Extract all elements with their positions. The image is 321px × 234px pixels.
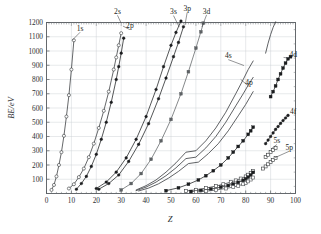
data-point-marker <box>85 175 88 178</box>
data-point-marker <box>100 138 103 141</box>
annotation-4s: 4s <box>225 51 244 65</box>
data-point-marker <box>227 156 230 159</box>
data-point-marker <box>105 181 108 184</box>
x-tick-label: 80 <box>242 196 250 205</box>
data-point-marker <box>77 176 80 179</box>
annotation-3p: 3p <box>183 4 191 25</box>
data-point-marker <box>264 142 267 145</box>
data-point-marker <box>274 128 277 131</box>
data-point-marker <box>95 187 98 190</box>
series-line <box>51 40 73 190</box>
x-tick-label: 30 <box>118 196 126 205</box>
data-point-marker <box>52 183 55 186</box>
data-point-marker <box>237 184 240 187</box>
data-point-marker <box>112 68 115 71</box>
series-label-text: 4d <box>290 50 298 59</box>
series-label-text: 5p <box>285 143 293 152</box>
data-point-marker <box>97 126 100 129</box>
y-tick-label: 1100 <box>29 32 44 41</box>
series-label-text: 4s <box>225 51 232 60</box>
data-point-marker <box>65 115 68 118</box>
data-point-marker <box>224 187 227 190</box>
data-point-marker <box>125 157 128 160</box>
data-point-marker <box>204 187 207 190</box>
data-point-marker <box>277 125 280 128</box>
data-point-marker <box>107 182 110 185</box>
data-point-marker <box>187 183 190 186</box>
annotation-leader-line <box>228 60 244 66</box>
data-point-marker <box>127 160 130 163</box>
data-point-marker <box>187 70 190 73</box>
data-point-marker <box>145 115 148 118</box>
data-point-marker <box>72 183 75 186</box>
annotation-2s: 2s <box>114 7 121 23</box>
x-tick-label: 70 <box>217 196 225 205</box>
data-point-marker <box>160 139 163 142</box>
data-point-marker <box>115 78 118 81</box>
y-tick-label: 200 <box>32 161 43 170</box>
data-point-marker <box>150 158 153 161</box>
data-point-marker <box>62 134 65 137</box>
chart-figure: 100200300400500600700800900100011001200 … <box>0 0 321 234</box>
y-tick-label: 600 <box>32 104 43 113</box>
data-point-marker <box>67 187 70 190</box>
data-point-marker <box>157 97 160 100</box>
annotation-leader-line <box>275 151 289 157</box>
data-point-marker <box>137 143 140 146</box>
data-point-marker <box>232 151 235 154</box>
annotation-leader-line <box>202 15 207 27</box>
y-tick-label: 900 <box>32 61 43 70</box>
data-point-marker <box>284 117 287 120</box>
series-line <box>166 127 253 190</box>
series-line <box>76 38 123 189</box>
data-point-marker <box>72 39 75 42</box>
data-point-marker <box>242 139 245 142</box>
series-label-text: 5s <box>273 136 280 145</box>
series-4s <box>136 61 253 190</box>
data-point-marker <box>267 139 270 142</box>
data-point-marker <box>50 188 53 191</box>
data-point-marker <box>252 126 255 129</box>
data-point-marker <box>130 182 133 185</box>
series-label-text: 3s <box>170 7 177 16</box>
x-axis-tick-labels: 0102030405060708090100 <box>45 196 302 205</box>
x-tick-label: 60 <box>192 196 200 205</box>
annotation-3s: 3s <box>170 7 179 27</box>
data-point-marker <box>172 55 175 58</box>
series-3s <box>95 20 182 190</box>
data-point-marker <box>162 65 165 68</box>
data-point-marker <box>252 171 255 174</box>
data-point-marker <box>120 52 123 55</box>
y-tick-label: 500 <box>32 118 43 127</box>
data-point-marker <box>135 138 138 141</box>
annotation-1s: 1s <box>72 24 83 40</box>
data-point-marker <box>87 156 90 159</box>
series-label-text: 3p <box>183 4 191 13</box>
data-point-marker <box>147 122 150 125</box>
annotation-leader-line <box>72 32 80 40</box>
data-point-marker <box>175 31 178 34</box>
x-tick-label: 90 <box>267 196 275 205</box>
data-point-marker <box>232 186 235 189</box>
y-axis-title: BE/eV <box>6 95 16 119</box>
data-point-marker <box>60 151 63 154</box>
data-point-marker <box>189 190 192 193</box>
data-point-marker <box>90 165 93 168</box>
data-point-marker <box>282 119 285 122</box>
data-point-marker <box>232 183 235 186</box>
x-tick-label: 10 <box>68 196 76 205</box>
data-point-marker <box>177 186 180 189</box>
data-point-marker <box>155 88 158 91</box>
data-point-marker <box>120 188 123 191</box>
series-label-text: 3d <box>203 7 211 16</box>
y-tick-label: 1000 <box>28 47 43 56</box>
y-tick-label: 800 <box>32 75 43 84</box>
series-line <box>136 61 253 190</box>
data-point-marker <box>247 133 250 136</box>
data-point-marker <box>204 174 207 177</box>
data-point-marker <box>194 47 197 50</box>
data-point-marker <box>170 118 173 121</box>
data-point-marker <box>170 44 173 47</box>
x-axis-title: Z <box>168 214 173 224</box>
y-axis-tick-labels: 100200300400500600700800900100011001200 <box>28 18 43 184</box>
